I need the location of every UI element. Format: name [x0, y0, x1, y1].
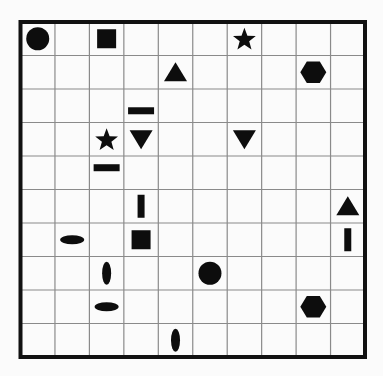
ellipse-horizontal-shape	[60, 235, 84, 244]
circle-shape	[198, 262, 221, 285]
circle-shape	[26, 27, 49, 50]
ellipse-vertical-shape	[171, 329, 180, 352]
bar-vertical-shape	[344, 228, 351, 251]
bar-horizontal-shape	[94, 164, 120, 171]
square-shape	[97, 29, 116, 48]
ellipse-horizontal-shape	[95, 302, 119, 311]
background	[0, 0, 383, 376]
bar-horizontal-shape	[128, 107, 154, 114]
shape-grid-board	[0, 0, 383, 376]
ellipse-vertical-shape	[102, 262, 111, 285]
square-shape	[132, 230, 151, 249]
bar-vertical-shape	[138, 195, 145, 218]
